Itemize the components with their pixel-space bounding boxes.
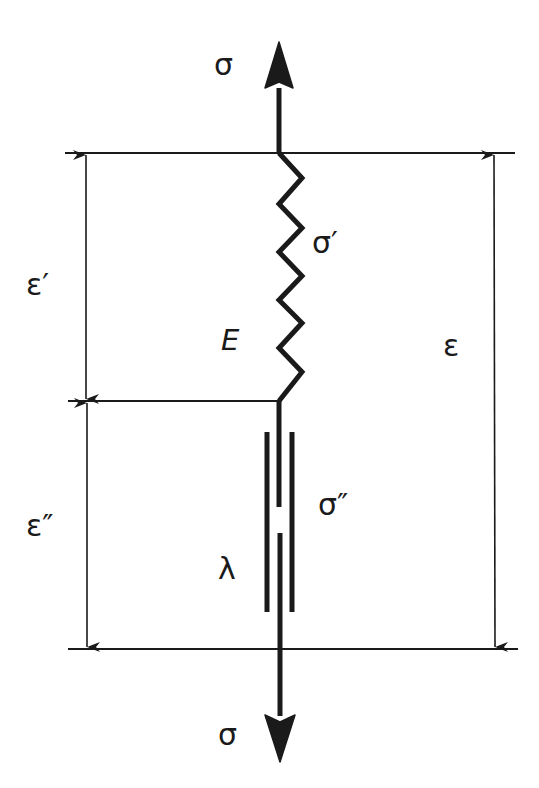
maxwell-model-diagram — [0, 0, 539, 788]
total-strain-label: ε — [443, 331, 459, 361]
spring-icon — [279, 153, 302, 401]
bottom-stress-label: σ — [218, 720, 237, 750]
top-force-arrow-icon — [265, 42, 293, 153]
top-stress-label: σ — [214, 50, 233, 80]
dashpot-icon — [267, 401, 292, 649]
dashpot-strain-label: ε″ — [26, 511, 53, 541]
bottom-force-arrow-icon — [265, 649, 295, 762]
dashpot-stress-label: σ″ — [318, 490, 348, 520]
spring-strain-label: ε′ — [26, 270, 49, 300]
spring-stress-label: σ′ — [312, 228, 338, 258]
dashpot-viscosity-label: λ — [218, 554, 236, 584]
total-strain-dimension-arrow — [494, 155, 495, 647]
spring-modulus-label: E — [221, 326, 239, 355]
